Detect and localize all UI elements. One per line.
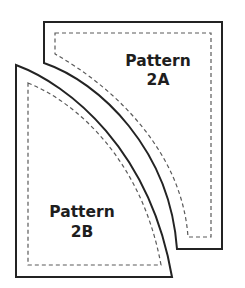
pattern-2a-label-line2: 2A [147, 71, 170, 89]
pattern-2b-label-line2: 2B [71, 223, 94, 241]
pattern-2a-label-line1: Pattern [125, 52, 190, 70]
pattern-diagram: Pattern 2A Pattern 2B [0, 0, 245, 288]
pattern-2b-label-line1: Pattern [49, 203, 114, 221]
